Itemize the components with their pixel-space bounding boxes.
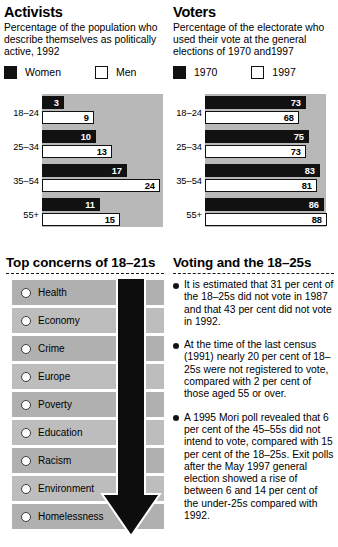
list-item-label: Economy: [38, 315, 80, 326]
activists-value-women-55plus: 11: [85, 200, 99, 210]
activists-bar-women-55plus: 11: [42, 198, 100, 211]
bullet-circle-icon: [21, 512, 31, 522]
bullet-dot-icon: [173, 343, 179, 349]
list-item: It is estimated that 31 per cent of the …: [173, 279, 334, 328]
activists-bar-women-35-54: 17: [42, 164, 127, 177]
concerns-title: Top concerns of 18–21s: [6, 255, 164, 270]
activists-chart: 18–24 3 9 25–34 10 13 35–54 17 24 55+ 11…: [0, 94, 169, 230]
voters-bar-1970-35-54: 83: [205, 164, 320, 177]
voters-value-1970-18-24: 73: [291, 98, 305, 108]
legend-item-men: Men: [95, 66, 136, 79]
list-item-label: Education: [38, 427, 82, 438]
down-arrow-icon: [100, 278, 162, 540]
legend-item-women: Women: [4, 66, 61, 79]
voting-facts-title: Voting and the 18–25s: [173, 255, 334, 270]
bullet-circle-icon: [21, 428, 31, 438]
activists-bar-men-35-54: 24: [42, 179, 160, 192]
legend-swatch-light-icon: [95, 66, 108, 79]
voting-facts-panel: Voting and the 18–25s It is estimated th…: [173, 255, 334, 533]
list-item-label: Poverty: [38, 399, 72, 410]
activists-value-men-55plus: 15: [105, 215, 119, 225]
voters-cat-25-34: 25–34: [169, 142, 202, 152]
voters-bar-1997-35-54: 81: [205, 179, 317, 192]
activists-panel: Activists Percentage of the population w…: [4, 4, 164, 79]
activists-cat-35-54: 35–54: [4, 176, 39, 186]
legend-item-1997: 1997: [251, 66, 295, 79]
voters-cat-18-24: 18–24: [169, 108, 202, 118]
activists-bar-women-25-34: 10: [42, 130, 96, 143]
activists-bar-men-55plus: 15: [42, 213, 120, 226]
activists-value-women-35-54: 17: [112, 166, 126, 176]
activists-title: Activists: [4, 4, 164, 20]
legend-swatch-dark-icon: [173, 66, 186, 79]
activists-legend: Women Men: [4, 66, 164, 79]
concerns-list: Health Economy Crime Europe Poverty Educ…: [12, 280, 164, 540]
voting-facts-list: It is estimated that 31 per cent of the …: [173, 279, 334, 522]
list-item-label: Health: [38, 287, 67, 298]
list-item: A 1995 Mori poll revealed that 6 per cen…: [173, 412, 334, 523]
bullet-circle-icon: [21, 288, 31, 298]
voters-value-1970-35-54: 83: [305, 166, 319, 176]
bullet-dot-icon: [173, 415, 179, 421]
legend-label-men: Men: [116, 66, 136, 78]
legend-label-1970: 1970: [194, 66, 217, 78]
voters-cat-35-54: 35–54: [169, 176, 202, 186]
bullet-circle-icon: [21, 456, 31, 466]
concerns-divider: [6, 273, 164, 274]
voters-title: Voters: [173, 4, 335, 20]
list-item-label: Europe: [38, 371, 70, 382]
list-item-label: Homelessness: [38, 511, 104, 522]
voters-bar-1997-55plus: 88: [205, 213, 327, 226]
voters-chart: 18–24 73 68 25–34 75 73 35–54 83 81 55+ …: [169, 94, 338, 230]
activists-value-women-25-34: 10: [81, 132, 95, 142]
list-item-text: At the time of the last census (1991) ne…: [184, 339, 331, 399]
list-item-label: Crime: [38, 343, 65, 354]
bullet-circle-icon: [21, 484, 31, 494]
list-item-label: Racism: [38, 455, 71, 466]
list-item-label: Environment: [38, 483, 94, 494]
voters-value-1997-25-34: 73: [291, 147, 305, 157]
voters-value-1997-18-24: 68: [284, 113, 298, 123]
bullet-circle-icon: [21, 400, 31, 410]
legend-item-1970: 1970: [173, 66, 217, 79]
voters-value-1997-55plus: 88: [312, 215, 326, 225]
voters-legend: 1970 1997: [173, 66, 335, 79]
voters-cat-55plus: 55+: [169, 210, 202, 220]
voters-subtitle: Percentage of the electorate who used th…: [173, 22, 335, 59]
activists-cat-25-34: 25–34: [4, 142, 39, 152]
voters-bar-1970-55plus: 86: [205, 198, 324, 211]
infographic-page: Activists Percentage of the population w…: [0, 0, 338, 547]
voters-value-1970-55plus: 86: [309, 200, 323, 210]
voters-panel: Voters Percentage of the electorate who …: [173, 4, 335, 79]
activists-bar-men-25-34: 13: [42, 145, 112, 158]
voters-bar-1997-18-24: 68: [205, 111, 299, 124]
bullet-dot-icon: [173, 283, 179, 289]
legend-swatch-light-icon: [251, 66, 264, 79]
voters-value-1970-25-34: 75: [294, 132, 308, 142]
list-item: At the time of the last census (1991) ne…: [173, 339, 334, 400]
voters-bar-1970-25-34: 75: [205, 130, 309, 143]
voters-value-1997-35-54: 81: [302, 181, 316, 191]
activists-cat-18-24: 18–24: [4, 108, 39, 118]
voters-bar-1970-18-24: 73: [205, 96, 306, 109]
legend-label-women: Women: [25, 66, 61, 78]
list-item-text: A 1995 Mori poll revealed that 6 per cen…: [184, 412, 333, 521]
activists-value-women-18-24: 3: [54, 98, 63, 108]
activists-value-men-35-54: 24: [145, 181, 159, 191]
voters-bar-1997-25-34: 73: [205, 145, 306, 158]
concerns-panel: Top concerns of 18–21s: [6, 255, 164, 274]
activists-value-men-25-34: 13: [97, 147, 111, 157]
activists-bar-women-18-24: 3: [42, 96, 64, 109]
activists-value-men-18-24: 9: [84, 113, 93, 123]
activists-bar-men-18-24: 9: [42, 111, 94, 124]
list-item-text: It is estimated that 31 per cent of the …: [184, 279, 333, 327]
activists-subtitle: Percentage of the population who describ…: [4, 22, 164, 59]
bullet-circle-icon: [21, 344, 31, 354]
voting-facts-divider: [173, 273, 334, 274]
activists-cat-55plus: 55+: [4, 210, 39, 220]
legend-swatch-dark-icon: [4, 66, 17, 79]
bullet-circle-icon: [21, 316, 31, 326]
bullet-circle-icon: [21, 372, 31, 382]
legend-label-1997: 1997: [272, 66, 295, 78]
